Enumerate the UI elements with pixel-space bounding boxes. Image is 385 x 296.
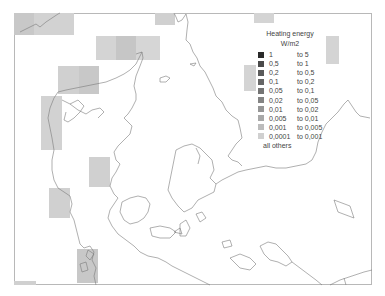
- legend-row-others: all others: [250, 141, 330, 150]
- legend-row: 0,05to 0,1: [250, 86, 330, 95]
- legend-row: 0,001to 0,005: [250, 123, 330, 132]
- legend-range-high: to 0,001: [297, 133, 322, 140]
- legend-swatch: [258, 70, 264, 76]
- legend-swatch: [258, 61, 264, 67]
- legend-row: 1to 5: [250, 50, 330, 59]
- legend-row: 0,0001to 0,001: [250, 132, 330, 141]
- legend-swatch: [258, 97, 264, 103]
- grid-cell: [79, 66, 99, 94]
- legend-range-low: 0,01: [269, 106, 297, 113]
- legend-swatch: [258, 52, 264, 58]
- legend-unit: W/m2: [250, 40, 330, 48]
- legend-range-low: 0,0001: [269, 133, 297, 140]
- grid-cell: [49, 188, 70, 218]
- legend-range-high: to 0,02: [297, 106, 318, 113]
- legend-range-high: to 5: [297, 51, 309, 58]
- grid-cell: [96, 36, 116, 60]
- legend-swatch: [258, 106, 264, 112]
- legend-range-high: to 0,05: [297, 97, 318, 104]
- map-legend: Heating energy W/m2 1to 50,5to 10,2to 0,…: [250, 30, 330, 150]
- legend-swatch: [258, 115, 264, 121]
- legend-range-low: 0,005: [269, 115, 297, 122]
- legend-range-high: to 0,5: [297, 69, 315, 76]
- legend-range-high: to 1: [297, 60, 309, 67]
- legend-row: 0,005to 0,01: [250, 114, 330, 123]
- grid-cell: [254, 13, 274, 23]
- legend-range-high: to 0,01: [297, 115, 318, 122]
- legend-row: 0,02to 0,05: [250, 95, 330, 104]
- legend-range-low: 0,001: [269, 124, 297, 131]
- legend-range-low: 0,2: [269, 69, 297, 76]
- legend-row: 0,5to 1: [250, 59, 330, 68]
- legend-range-high: to 0,1: [297, 87, 315, 94]
- grid-cell: [89, 157, 110, 187]
- legend-range-low: 1: [269, 51, 297, 58]
- legend-range-high: to 0,2: [297, 78, 315, 85]
- grid-cell: [34, 13, 74, 35]
- legend-range-high: to 0,005: [297, 124, 322, 131]
- grid-cell: [116, 36, 136, 60]
- legend-swatch: [258, 88, 264, 94]
- legend-title: Heating energy: [250, 30, 330, 38]
- legend-row: 0,2to 0,5: [250, 68, 330, 77]
- legend-swatch: [258, 124, 264, 130]
- legend-swatch: [258, 79, 264, 85]
- legend-entries: 1to 50,5to 10,2to 0,50,1to 0,20,05to 0,1…: [250, 50, 330, 141]
- legend-range-low: 0,05: [269, 87, 297, 94]
- legend-range-low: 0,5: [269, 60, 297, 67]
- legend-range-low: 0,1: [269, 78, 297, 85]
- legend-range-low: 0,02: [269, 97, 297, 104]
- legend-row: 0,01to 0,02: [250, 105, 330, 114]
- legend-row: 0,1to 0,2: [250, 77, 330, 86]
- legend-others-label: all others: [263, 142, 291, 149]
- grid-cell: [155, 13, 175, 25]
- grid-cell: [14, 13, 34, 35]
- grid-cell: [14, 281, 36, 285]
- legend-swatch: [258, 133, 264, 139]
